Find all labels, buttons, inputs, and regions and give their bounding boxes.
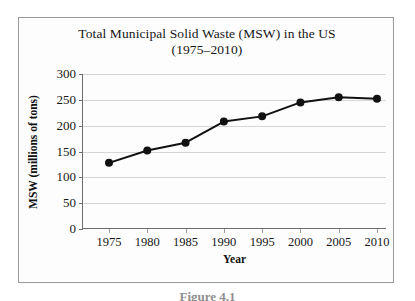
y-tick-label: 150 — [57, 144, 77, 160]
x-tick-label: 1985 — [173, 235, 198, 250]
y-axis-title: MSW (millions of tons) — [25, 74, 41, 229]
data-point — [182, 139, 190, 147]
data-point — [296, 98, 304, 106]
y-tick-label: 100 — [57, 169, 77, 185]
x-tick-mark — [377, 229, 378, 233]
y-tick-mark — [79, 229, 83, 230]
x-tick-mark — [224, 229, 225, 233]
x-tick-mark — [186, 229, 187, 233]
x-tick-mark — [262, 229, 263, 233]
x-tick-mark — [300, 229, 301, 233]
y-axis-title-text: MSW (millions of tons) — [27, 95, 39, 209]
data-point — [143, 146, 151, 154]
x-tick-mark — [339, 229, 340, 233]
y-tick-label: 50 — [63, 195, 76, 211]
chart-title-line-2: (1975–2010) — [19, 42, 395, 58]
y-tick-label: 200 — [57, 118, 77, 134]
x-tick-label: 1990 — [211, 235, 236, 250]
chart-title: Total Municipal Solid Waste (MSW) in the… — [19, 26, 395, 58]
data-point — [258, 112, 266, 120]
data-point — [220, 118, 228, 126]
x-tick-mark — [109, 229, 110, 233]
data-point — [373, 95, 381, 103]
x-tick-mark — [147, 229, 148, 233]
data-point — [105, 159, 113, 167]
x-tick-label: 1975 — [97, 235, 122, 250]
y-tick-label: 250 — [57, 92, 77, 108]
figure-frame: Total Municipal Solid Waste (MSW) in the… — [18, 17, 394, 283]
x-tick-label: 2005 — [326, 235, 351, 250]
data-series-msw — [83, 74, 386, 229]
figure-caption: Figure 4.1 — [0, 289, 415, 301]
plot-area: 050100150200250300 197519801985199019952… — [83, 74, 386, 229]
data-point — [335, 93, 343, 101]
x-tick-label: 2000 — [288, 235, 313, 250]
x-axis-title: Year — [83, 253, 386, 265]
x-tick-label: 1995 — [250, 235, 275, 250]
y-tick-label: 300 — [57, 66, 77, 82]
x-tick-label: 1980 — [135, 235, 160, 250]
y-tick-label: 0 — [70, 221, 77, 237]
chart-title-line-1: Total Municipal Solid Waste (MSW) in the… — [78, 26, 335, 41]
x-tick-label: 2010 — [365, 235, 390, 250]
